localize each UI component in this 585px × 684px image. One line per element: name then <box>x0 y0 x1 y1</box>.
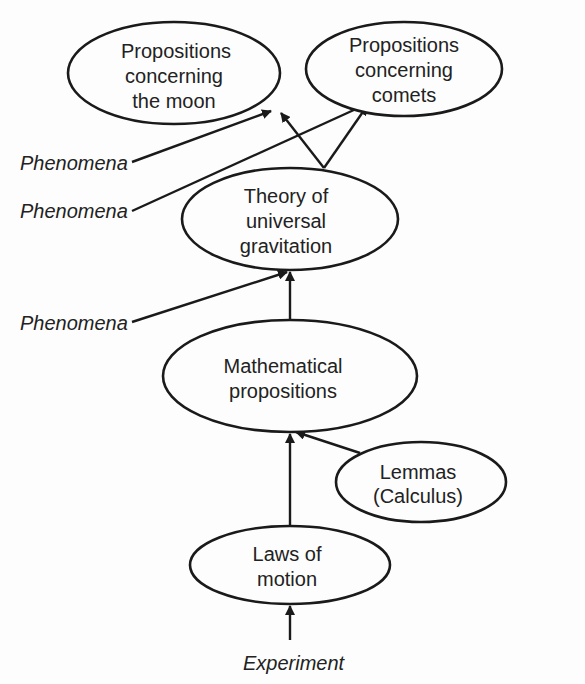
node-math-line-2: propositions <box>229 380 337 402</box>
node-comets-line-3: comets <box>372 84 436 106</box>
node-comets: Propositions concerning comets <box>306 22 502 116</box>
node-theory-line-2: universal <box>246 210 326 232</box>
node-comets-line-2: concerning <box>355 59 453 81</box>
edge-phenomena-to-theory <box>132 272 287 322</box>
node-lemmas-line-2: (Calculus) <box>373 485 463 507</box>
node-moon-line-1: Propositions <box>121 40 231 62</box>
node-comets-line-1: Propositions <box>349 34 459 56</box>
edge-lemmas-to-math <box>296 432 360 453</box>
node-theory: Theory of universal gravitation <box>182 168 398 270</box>
node-moon: Propositions concerning the moon <box>68 22 280 124</box>
node-math-line-1: Mathematical <box>224 355 343 377</box>
node-laws-line-2: motion <box>257 568 317 590</box>
node-moon-line-3: the moon <box>132 90 215 112</box>
node-laws-line-1: Laws of <box>253 543 322 565</box>
node-theory-line-3: gravitation <box>240 235 332 257</box>
edge-theory-to-comets <box>324 106 367 168</box>
input-experiment: Experiment <box>243 652 346 674</box>
node-moon-line-2: concerning <box>125 65 223 87</box>
input-phenomena-2: Phenomena <box>20 200 128 222</box>
node-math: Mathematical propositions <box>163 320 417 432</box>
node-lemmas: Lemmas (Calculus) <box>336 442 506 522</box>
node-theory-line-1: Theory of <box>244 185 329 207</box>
diagram-canvas: Propositions concerning the moon Proposi… <box>0 0 585 684</box>
input-phenomena-3: Phenomena <box>20 312 128 334</box>
input-phenomena-1: Phenomena <box>20 152 128 174</box>
node-lemmas-line-1: Lemmas <box>380 461 457 483</box>
node-laws: Laws of motion <box>190 526 390 604</box>
